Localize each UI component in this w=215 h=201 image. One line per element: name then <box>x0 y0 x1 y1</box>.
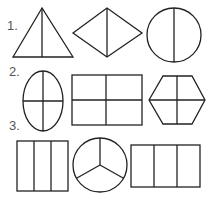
rhombus-halved <box>73 8 142 57</box>
hexagon-quartered <box>149 76 205 124</box>
circle-thirds <box>73 138 127 192</box>
rectangle-quartered <box>72 75 142 125</box>
rectangle-thirds-wide <box>131 145 200 187</box>
shapes-diagram <box>0 0 215 201</box>
circle-halved <box>147 8 201 62</box>
rectangle-thirds-vertical <box>17 141 68 191</box>
triangle-halved <box>13 8 73 57</box>
ellipse-quartered <box>23 71 63 131</box>
